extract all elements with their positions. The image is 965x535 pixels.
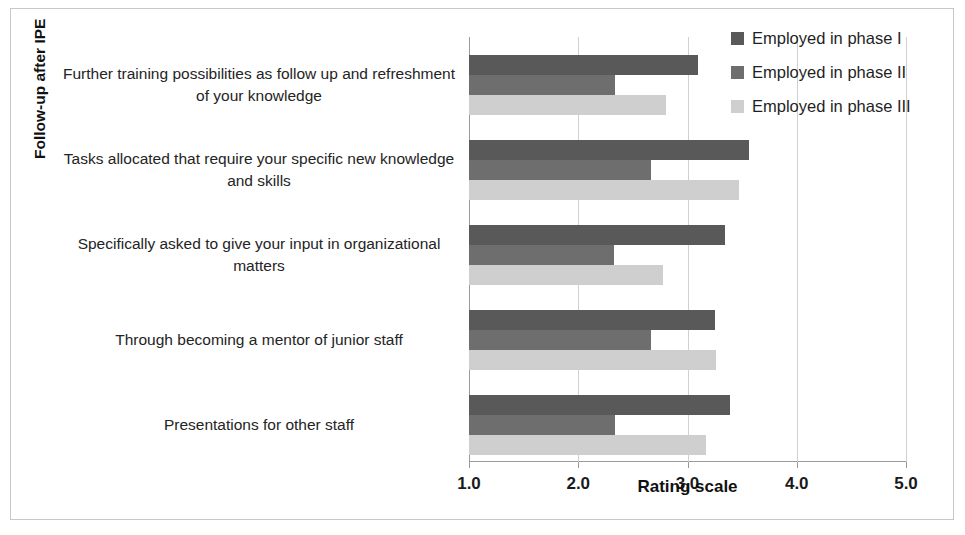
bar-3-group-4 [469, 350, 716, 370]
clipped-caption-text [0, 0, 965, 7]
x-tick [906, 462, 907, 468]
legend-label: Employed in phase III [752, 97, 911, 116]
bar-1-group-4 [469, 310, 715, 330]
category-label: Tasks allocated that require your specif… [59, 148, 459, 192]
category-label: Presentations for other staff [59, 414, 459, 436]
legend-swatch-phase-2 [731, 66, 744, 79]
bar-3-group-5 [469, 435, 706, 455]
bar-3-group-3 [469, 265, 663, 285]
legend-item-2[interactable]: Employed in phase II [731, 55, 946, 89]
category-label: Through becoming a mentor of junior staf… [59, 329, 459, 351]
legend-swatch-phase-3 [731, 100, 744, 113]
bar-2-group-5 [469, 415, 615, 435]
legend: Employed in phase IEmployed in phase IIE… [731, 21, 946, 123]
x-tick [797, 462, 798, 468]
x-tick [469, 462, 470, 468]
bar-1-group-2 [469, 140, 749, 160]
legend-item-3[interactable]: Employed in phase III [731, 89, 946, 123]
bar-3-group-1 [469, 95, 666, 115]
chart-frame: Follow-up after IPE Further training pos… [10, 8, 954, 520]
legend-label: Employed in phase I [752, 29, 902, 48]
bar-1-group-1 [469, 55, 698, 75]
x-tick [578, 462, 579, 468]
bar-2-group-4 [469, 330, 651, 350]
bar-2-group-1 [469, 75, 615, 95]
chart-screenshot: Follow-up after IPE Further training pos… [0, 0, 965, 535]
legend-item-1[interactable]: Employed in phase I [731, 21, 946, 55]
y-axis-title-wrap: Follow-up after IPE [25, 9, 55, 469]
legend-label: Employed in phase II [752, 63, 906, 82]
category-label: Further training possibilities as follow… [59, 63, 459, 107]
y-axis-title: Follow-up after IPE [31, 0, 49, 159]
category-label: Specifically asked to give your input in… [59, 233, 459, 277]
bar-3-group-2 [469, 180, 739, 200]
bar-1-group-5 [469, 395, 730, 415]
bar-2-group-2 [469, 160, 651, 180]
legend-swatch-phase-1 [731, 32, 744, 45]
x-axis-title: Rating scale [469, 477, 906, 497]
bar-2-group-3 [469, 245, 614, 265]
x-tick [688, 462, 689, 468]
bar-1-group-3 [469, 225, 725, 245]
